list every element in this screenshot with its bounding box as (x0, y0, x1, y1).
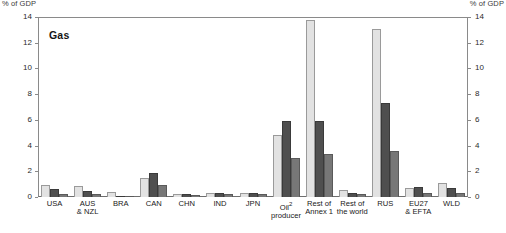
bar (381, 103, 390, 197)
bar (59, 194, 68, 197)
bar (348, 193, 357, 197)
left-tick-label: 12 (16, 39, 32, 47)
bar (456, 193, 465, 198)
bar (306, 20, 315, 197)
bar (182, 194, 191, 197)
bar-group (140, 17, 168, 197)
right-tick-mark (468, 43, 471, 44)
bar (206, 193, 215, 197)
bar (372, 29, 381, 197)
left-tick-label: 2 (16, 167, 32, 175)
right-tick-label: 12 (475, 39, 491, 47)
right-tick-mark (468, 197, 471, 198)
bar-group (173, 17, 201, 197)
right-tick-label: 6 (475, 116, 491, 124)
bar (158, 185, 167, 197)
right-tick-label: 8 (475, 90, 491, 98)
bar-group (272, 17, 300, 197)
left-tick-label: 14 (16, 13, 32, 21)
bar (149, 173, 158, 197)
bar (224, 194, 233, 197)
bar (405, 188, 414, 197)
bar (438, 183, 447, 197)
bar-group (41, 17, 69, 197)
bar-group (338, 17, 366, 197)
bar (116, 196, 125, 197)
bar (324, 154, 333, 197)
bar (390, 151, 399, 197)
bar (339, 190, 348, 197)
bar-group (371, 17, 399, 197)
right-tick-mark (468, 146, 471, 147)
bar (249, 193, 258, 197)
bar-group (107, 17, 135, 197)
bar (447, 188, 456, 197)
bar (191, 195, 200, 197)
bar (50, 189, 59, 197)
bar (83, 191, 92, 197)
category-label: WLD (421, 200, 481, 208)
right-tick-mark (468, 68, 471, 69)
bar (125, 196, 134, 197)
bar (258, 194, 267, 197)
bar-group (206, 17, 234, 197)
left-tick-mark (35, 68, 38, 69)
right-tick-mark (468, 171, 471, 172)
left-tick-mark (35, 94, 38, 95)
bar (215, 193, 224, 197)
left-tick-mark (35, 146, 38, 147)
bar (92, 194, 101, 197)
bar (315, 121, 324, 197)
right-tick-mark (468, 120, 471, 121)
left-tick-mark (35, 197, 38, 198)
right-tick-label: 2 (475, 167, 491, 175)
left-axis-unit-label: % of GDP (2, 0, 36, 8)
bar (41, 185, 50, 197)
left-tick-mark (35, 120, 38, 121)
bar (240, 193, 249, 197)
right-tick-mark (468, 94, 471, 95)
left-tick-mark (35, 171, 38, 172)
bar (282, 121, 291, 197)
bar (140, 178, 149, 197)
right-tick-label: 10 (475, 64, 491, 72)
left-tick-label: 10 (16, 64, 32, 72)
bar-group (239, 17, 267, 197)
right-tick-label: 4 (475, 142, 491, 150)
right-tick-label: 14 (475, 13, 491, 21)
bar (357, 194, 366, 197)
left-tick-label: 4 (16, 142, 32, 150)
left-tick-label: 6 (16, 116, 32, 124)
bar-group (305, 17, 333, 197)
left-tick-label: 8 (16, 90, 32, 98)
bar (291, 158, 300, 197)
left-tick-mark (35, 17, 38, 18)
bar (173, 194, 182, 197)
bar (414, 187, 423, 197)
bar-group (437, 17, 465, 197)
bar-group (404, 17, 432, 197)
bar (107, 192, 116, 197)
right-axis-unit-label: % of GDP (470, 0, 504, 8)
bar (423, 193, 432, 198)
left-tick-mark (35, 43, 38, 44)
bar-group (74, 17, 102, 197)
gas-share-of-gdp-chart: % of GDP % of GDP Gas 02468101214 024681… (0, 0, 506, 233)
right-tick-mark (468, 17, 471, 18)
bar (74, 186, 83, 197)
bar (273, 135, 282, 197)
